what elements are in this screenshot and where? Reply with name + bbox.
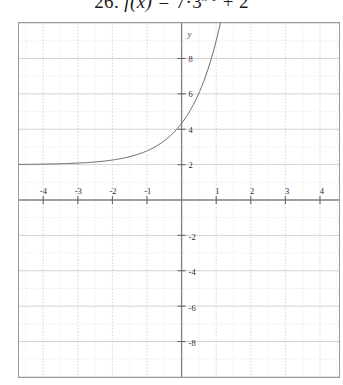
coordinate-plane: -4-3-2-112348642-2-4-6-8y <box>18 22 340 378</box>
x-axis-tick-label: 1 <box>215 186 219 196</box>
x-axis-tick-label: -2 <box>109 186 116 196</box>
page-title: 26. f(x) = 7·3x-1 + 2 <box>0 0 343 13</box>
y-axis-tick-label: 2 <box>189 160 193 170</box>
y-axis-tick-label: 8 <box>189 54 193 64</box>
y-axis-tick-label: -6 <box>189 303 196 313</box>
graph-worksheet-page: 26. f(x) = 7·3x-1 + 2 -4-3-2-112348642-2… <box>0 0 343 385</box>
y-axis-tick-label: 6 <box>189 89 193 99</box>
x-axis-tick-label: 2 <box>250 186 254 196</box>
y-axis-tick-label: 4 <box>189 125 193 135</box>
x-axis-tick-label: 4 <box>320 186 324 196</box>
y-axis-tick-label: -4 <box>189 267 196 277</box>
y-axis-tick-label: -8 <box>189 338 196 348</box>
x-axis-tick-label: -1 <box>144 186 151 196</box>
y-axis-label: y <box>188 29 192 39</box>
tick-label-layer: -4-3-2-112348642-2-4-6-8y <box>19 23 339 377</box>
y-axis-tick-label: -2 <box>189 232 196 242</box>
function-variable: (x) <box>130 0 152 12</box>
x-axis-tick-label: -4 <box>40 186 47 196</box>
problem-number: 26. <box>94 0 119 12</box>
x-axis-tick-label: 3 <box>285 186 289 196</box>
constant-term: + 2 <box>223 0 249 12</box>
exponent: x-1 <box>202 0 217 3</box>
coefficient-base: 7·3 <box>176 0 203 12</box>
equals-sign: = <box>157 0 170 12</box>
x-axis-tick-label: -3 <box>75 186 82 196</box>
